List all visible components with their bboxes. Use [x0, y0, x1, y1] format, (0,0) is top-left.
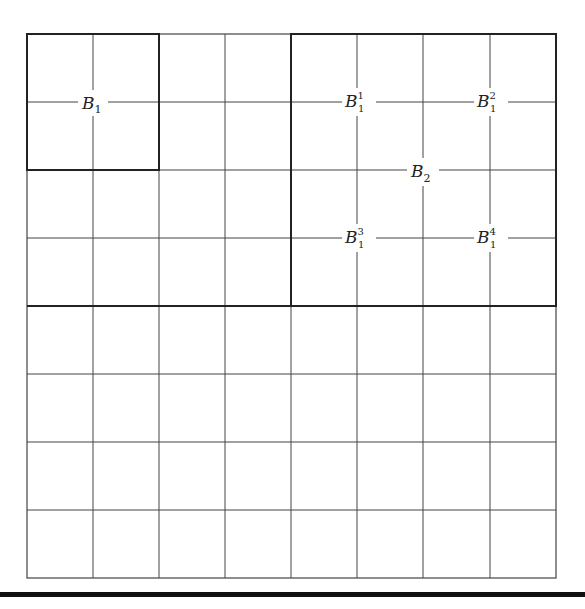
bottom-rule — [0, 592, 585, 597]
grid-partition-diagram: B1 B11 B21 B2 B31 B41 — [0, 0, 585, 609]
